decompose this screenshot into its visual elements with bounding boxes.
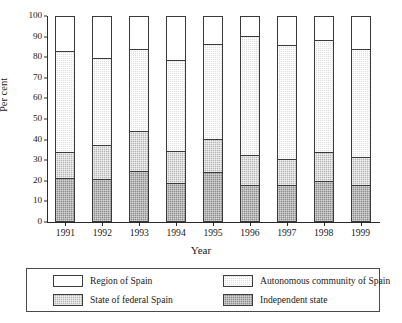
bar-segment[interactable]	[56, 179, 74, 221]
x-axis-tick-mark	[139, 222, 140, 226]
bar-segment[interactable]	[278, 160, 296, 187]
x-axis-tick-mark	[324, 222, 325, 226]
bar-segment[interactable]	[167, 184, 185, 221]
bar-segment[interactable]	[241, 37, 259, 155]
x-axis-tick-label: 1992	[93, 227, 112, 238]
bar-segment[interactable]	[93, 180, 111, 221]
bar-segment[interactable]	[241, 17, 259, 37]
stacked-bar[interactable]	[166, 16, 186, 222]
y-axis-tick-label: 0	[0, 217, 47, 226]
bar-segment[interactable]	[315, 41, 333, 152]
bar-segment[interactable]	[278, 186, 296, 221]
y-axis-tick-label: 20	[0, 176, 47, 185]
bar-segment[interactable]	[93, 146, 111, 181]
bar-segment[interactable]	[315, 153, 333, 183]
x-axis-tick-mark	[250, 222, 251, 226]
bar-column[interactable]	[277, 16, 297, 222]
bar-column[interactable]	[55, 16, 75, 222]
x-axis-tick-label: 1998	[314, 227, 333, 238]
legend-item-autonomous-community-of-spain[interactable]: Autonomous community of Spain	[223, 275, 390, 287]
y-axis-tick-label: 60	[0, 94, 47, 103]
bar-segment[interactable]	[352, 158, 370, 187]
state-of-federal-spain-swatch	[53, 294, 83, 306]
stacked-bar[interactable]	[203, 16, 223, 222]
x-axis-tick-mark	[213, 222, 214, 226]
stacked-bar[interactable]	[277, 16, 297, 222]
legend-item-state-of-federal-spain[interactable]: State of federal Spain	[53, 294, 173, 306]
bar-segment[interactable]	[93, 17, 111, 59]
bar-column[interactable]	[92, 16, 112, 222]
x-axis-tick-mark	[102, 222, 103, 226]
bar-segment[interactable]	[56, 52, 74, 153]
x-axis-tick-mark	[176, 222, 177, 226]
bar-segment[interactable]	[130, 50, 148, 133]
bar-segment[interactable]	[315, 182, 333, 221]
bar-segment[interactable]	[56, 17, 74, 52]
bar-column[interactable]	[351, 16, 371, 222]
bar-segment[interactable]	[278, 17, 296, 46]
stacked-bar[interactable]	[129, 16, 149, 222]
bar-segment[interactable]	[278, 46, 296, 160]
x-axis-tick-label: 1991	[56, 227, 75, 238]
stacked-bar[interactable]	[351, 16, 371, 222]
x-axis-tick-mark	[287, 222, 288, 226]
bar-segment[interactable]	[204, 173, 222, 221]
x-axis-tick-label: 1999	[351, 227, 370, 238]
y-axis-tick-label: 40	[0, 135, 47, 144]
legend-item-independent-state[interactable]: Independent state	[223, 294, 327, 306]
legend: Region of Spain Autonomous community of …	[26, 268, 380, 312]
bar-segment[interactable]	[352, 186, 370, 221]
autonomous-community-swatch	[223, 275, 253, 287]
x-axis-tick-label: 1997	[277, 227, 296, 238]
bar-segment[interactable]	[204, 17, 222, 45]
stacked-bar[interactable]	[240, 16, 260, 222]
y-axis-tick-label: 10	[0, 197, 47, 206]
legend-label: Region of Spain	[90, 276, 152, 286]
legend-label: State of federal Spain	[90, 295, 173, 305]
x-axis-title: Year	[0, 244, 402, 256]
legend-label: Autonomous community of Spain	[260, 276, 390, 286]
x-axis-tick-label: 1994	[167, 227, 186, 238]
bar-segment[interactable]	[56, 153, 74, 180]
bar-segment[interactable]	[130, 132, 148, 172]
plot-area	[47, 16, 379, 222]
bar-segment[interactable]	[167, 17, 185, 61]
bar-segment[interactable]	[241, 186, 259, 221]
bar-segment[interactable]	[241, 156, 259, 187]
stacked-bar[interactable]	[314, 16, 334, 222]
legend-label: Independent state	[260, 295, 327, 305]
stacked-bar[interactable]	[55, 16, 75, 222]
bar-column[interactable]	[203, 16, 223, 222]
bar-segment[interactable]	[352, 17, 370, 50]
bar-column[interactable]	[166, 16, 186, 222]
bar-segment[interactable]	[167, 61, 185, 152]
y-axis-tick-label: 70	[0, 73, 47, 82]
stacked-bar-chart-figure: Per cent 0102030405060708090100 19911992…	[0, 0, 402, 323]
stacked-bar[interactable]	[92, 16, 112, 222]
legend-item-region-of-spain[interactable]: Region of Spain	[53, 275, 152, 287]
x-axis-tick-mark	[65, 222, 66, 226]
x-axis-tick-mark	[361, 222, 362, 226]
bar-segment[interactable]	[352, 50, 370, 158]
y-axis-tick-label: 90	[0, 32, 47, 41]
bar-segment[interactable]	[130, 17, 148, 50]
y-axis-tick-label: 100	[0, 11, 47, 20]
bar-column[interactable]	[240, 16, 260, 222]
bar-segment[interactable]	[204, 140, 222, 173]
bar-segment[interactable]	[204, 45, 222, 141]
y-axis-tick-label: 80	[0, 53, 47, 62]
y-axis-tick-label: 50	[0, 114, 47, 123]
x-axis-tick-label: 1993	[130, 227, 149, 238]
bar-column[interactable]	[314, 16, 334, 222]
independent-state-swatch	[223, 294, 253, 306]
bar-segment[interactable]	[93, 59, 111, 146]
bar-segment[interactable]	[130, 172, 148, 221]
y-axis-tick-label: 30	[0, 156, 47, 165]
x-axis-tick-label: 1996	[240, 227, 259, 238]
bar-column[interactable]	[129, 16, 149, 222]
x-axis-tick-label: 1995	[203, 227, 222, 238]
bar-segment[interactable]	[315, 17, 333, 41]
region-of-spain-swatch	[53, 275, 83, 287]
bar-segment[interactable]	[167, 152, 185, 185]
